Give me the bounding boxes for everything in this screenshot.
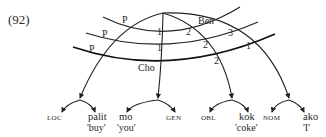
case-nom: NOM	[263, 114, 281, 122]
gloss-i: 'I'	[303, 122, 310, 133]
label-2-a: 2	[186, 26, 191, 37]
word-palit: palit	[88, 111, 107, 122]
label-2-c: 2	[214, 55, 219, 66]
word-kok: kok	[239, 111, 256, 122]
leaves: LOC palit 'buy' mo 'you' GEN OBL kok 'co…	[47, 111, 318, 133]
arc-ben	[163, 13, 289, 98]
gloss-you: 'you'	[117, 122, 136, 133]
case-gen: GEN	[166, 114, 181, 122]
label-p-top: P	[122, 14, 128, 25]
label-p-bot: P	[89, 43, 95, 54]
label-1-a: 1	[157, 26, 162, 37]
word-mo: mo	[119, 111, 132, 122]
case-loc: LOC	[47, 114, 62, 122]
example-number: (92)	[8, 12, 30, 27]
arc-p	[80, 13, 163, 98]
label-1-c: 1	[246, 40, 251, 51]
gloss-coke: 'coke'	[235, 122, 258, 133]
stratal-diagram: (92) P P P 1 1 Cho Ben 2 2 2 3 1	[0, 0, 326, 137]
label-p-mid: P	[102, 28, 108, 39]
label-1-b: 1	[157, 42, 162, 53]
label-3: 3	[228, 27, 233, 38]
word-ako: ako	[303, 111, 318, 122]
arcs	[80, 13, 289, 98]
gloss-buy: 'buy'	[87, 122, 106, 133]
case-obl: OBL	[201, 114, 216, 122]
label-ben: Ben	[198, 15, 214, 26]
label-cho: Cho	[138, 62, 155, 73]
label-2-b: 2	[203, 39, 208, 50]
